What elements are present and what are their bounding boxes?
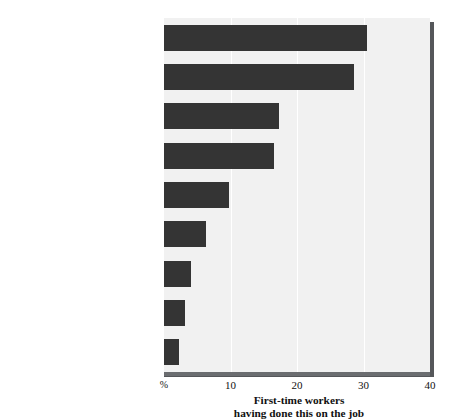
bar-row bbox=[164, 64, 430, 90]
bar bbox=[164, 221, 206, 247]
bar bbox=[164, 25, 367, 51]
bar bbox=[164, 143, 274, 169]
plot-area bbox=[164, 18, 430, 372]
x-axis-line bbox=[164, 372, 434, 377]
bar-row bbox=[164, 339, 430, 365]
bar bbox=[164, 64, 354, 90]
bar-row bbox=[164, 221, 430, 247]
bar bbox=[164, 182, 229, 208]
x-axis-caption: First-time workers having done this on t… bbox=[164, 394, 434, 420]
bar bbox=[164, 261, 191, 287]
bar-row bbox=[164, 261, 430, 287]
bar-row bbox=[164, 182, 430, 208]
x-tick-label-40: 40 bbox=[425, 379, 436, 391]
bar-chart: Called in sick when notGave away things … bbox=[0, 0, 452, 420]
bar bbox=[164, 300, 185, 326]
bar bbox=[164, 339, 179, 365]
x-tick-label-10: 10 bbox=[225, 379, 236, 391]
bar bbox=[164, 103, 279, 129]
x-axis-line-inner bbox=[164, 372, 430, 376]
x-tick-label-30: 30 bbox=[358, 379, 369, 391]
bar-row bbox=[164, 300, 430, 326]
x-tick-label-percent: % bbox=[160, 379, 168, 390]
bar-row bbox=[164, 25, 430, 51]
bar-row bbox=[164, 143, 430, 169]
bar-row bbox=[164, 103, 430, 129]
x-tick-label-20: 20 bbox=[292, 379, 303, 391]
